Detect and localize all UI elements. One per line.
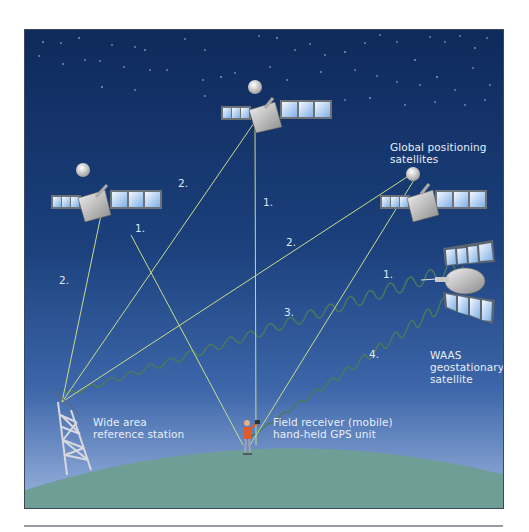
bottom-divider-rule xyxy=(24,525,503,527)
gps-satellites-label: Global positioning satellites xyxy=(390,141,486,165)
waas-satellite-label: WAAS geostationary satellite xyxy=(430,349,504,385)
signal-number-right-to-station: 2. xyxy=(286,236,296,248)
reference-station-label-line2: reference station xyxy=(93,428,184,440)
signal-number-waas-to-receiver: 4. xyxy=(369,348,379,360)
signal-number-top-to-station: 2. xyxy=(178,177,188,189)
waas-label-line1: WAAS xyxy=(430,349,504,361)
gps-satellites-label-line2: satellites xyxy=(390,153,486,165)
signal-number-station-to-waas: 3. xyxy=(284,306,294,318)
field-receiver-label-line1: Field receiver (mobile) xyxy=(273,416,393,428)
waas-label-line3: satellite xyxy=(430,373,504,385)
gps-satellites-label-line1: Global positioning xyxy=(390,141,486,153)
field-receiver-label: Field receiver (mobile) hand-held GPS un… xyxy=(273,416,393,440)
waas-label-line2: geostationary xyxy=(430,361,504,373)
signal-number-left-to-receiver: 1. xyxy=(135,222,145,234)
field-receiver-label-line2: hand-held GPS unit xyxy=(273,428,393,440)
signal-number-left-to-station: 2. xyxy=(59,274,69,286)
signal-number-top-to-receiver: 1. xyxy=(263,196,273,208)
reference-station-label: Wide area reference station xyxy=(93,416,184,440)
signal-number-right-to-receiver: 1. xyxy=(383,268,393,280)
reference-station-label-line1: Wide area xyxy=(93,416,184,428)
diagram-frame: Global positioning satellites WAAS geost… xyxy=(24,29,504,509)
